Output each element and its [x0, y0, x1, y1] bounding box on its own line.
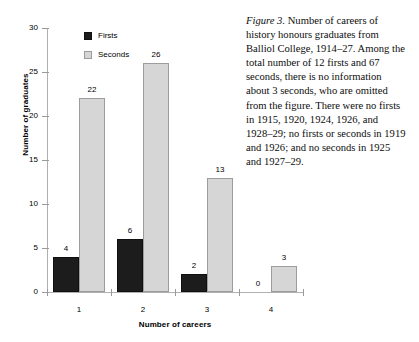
bar-seconds-3 [207, 178, 233, 292]
x-axis-tick-label: 1 [69, 305, 89, 314]
legend-item-seconds: Seconds [84, 47, 129, 62]
x-axis-tick-label: 3 [197, 305, 217, 314]
bar-seconds-2 [143, 63, 169, 292]
figure-caption: Figure 3. Number of careers of history h… [246, 14, 406, 169]
y-axis-tick [42, 116, 49, 117]
legend-swatch-firsts-icon [84, 32, 92, 40]
caption-body-text: Number of careers of history honours gra… [246, 15, 406, 167]
bar-firsts-1 [53, 257, 79, 292]
bar-value-label: 4 [53, 245, 79, 253]
legend-swatch-seconds-icon [84, 51, 92, 59]
bar-value-label: 0 [245, 280, 271, 288]
bar-value-label: 22 [79, 86, 105, 94]
caption-figure-label: Figure 3. [246, 15, 285, 26]
x-axis-tick-label: 2 [133, 305, 153, 314]
legend-label-firsts: Firsts [98, 31, 118, 40]
y-axis-tick-label: 10 [12, 200, 38, 208]
x-axis-tick [175, 289, 176, 296]
bar-value-label: 2 [181, 262, 207, 270]
x-axis-tick [303, 289, 304, 296]
y-axis-tick [42, 204, 49, 205]
legend-label-seconds: Seconds [98, 50, 129, 59]
y-axis-tick [42, 248, 49, 249]
bar-value-label: 6 [117, 227, 143, 235]
figure-3-container: Number of graduates 051015202530 1234 42… [0, 0, 419, 342]
x-axis-tick [111, 289, 112, 296]
y-axis-tick-label: 25 [12, 68, 38, 76]
x-axis-title: Number of careers [47, 320, 303, 329]
bar-seconds-1 [79, 98, 105, 292]
bar-chart: Number of graduates 051015202530 1234 42… [0, 0, 215, 342]
bar-value-label: 13 [207, 166, 233, 174]
x-axis-tick [239, 289, 240, 296]
x-axis-tick [47, 289, 48, 296]
y-axis-tick-label: 30 [12, 24, 38, 32]
bar-value-label: 3 [271, 254, 297, 262]
y-axis-tick-label: 5 [12, 244, 38, 252]
chart-legend: Firsts Seconds [84, 28, 129, 66]
x-axis-tick-label: 4 [261, 305, 281, 314]
legend-item-firsts: Firsts [84, 28, 129, 43]
y-axis-tick-label: 20 [12, 112, 38, 120]
y-axis-tick-label: 0 [12, 288, 38, 296]
y-axis-tick [42, 72, 49, 73]
bar-firsts-3 [181, 274, 207, 292]
bar-value-label: 26 [143, 51, 169, 59]
y-axis-tick [42, 28, 49, 29]
bar-seconds-4 [271, 266, 297, 292]
y-axis-tick [42, 160, 49, 161]
y-axis-tick-label: 15 [12, 156, 38, 164]
bar-firsts-2 [117, 239, 143, 292]
